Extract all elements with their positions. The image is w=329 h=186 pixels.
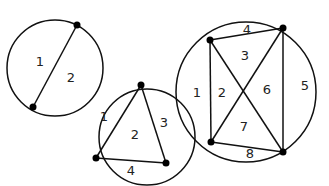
circle-group-two-points: 12	[7, 20, 103, 116]
region-label: 2	[218, 85, 226, 100]
region-label: 3	[160, 115, 168, 130]
region-label: 4	[127, 163, 135, 178]
circle-group-four-points: 43126578	[176, 22, 316, 163]
region-label: 2	[131, 127, 139, 142]
region-label: 1	[36, 54, 44, 69]
point-dot	[280, 149, 287, 156]
region-label: 4	[243, 22, 251, 37]
point-dot	[93, 155, 100, 162]
region-label: 5	[301, 78, 309, 93]
region-label: 2	[67, 70, 75, 85]
point-dot	[163, 160, 170, 167]
point-dot	[138, 82, 145, 89]
region-label: 8	[246, 146, 254, 161]
region-label: 1	[193, 85, 201, 100]
circle-outline	[7, 20, 103, 116]
point-dot	[74, 22, 81, 29]
point-dot	[208, 139, 215, 146]
region-label: 6	[263, 82, 271, 97]
region-label: 3	[241, 48, 249, 63]
circle-group-three-points: 1234	[93, 82, 196, 186]
point-dot	[280, 25, 287, 32]
chord-line	[210, 40, 211, 142]
point-dot	[30, 104, 37, 111]
circle-regions-diagram: 12123443126578	[0, 0, 329, 186]
point-dot	[207, 37, 214, 44]
region-label: 1	[100, 109, 108, 124]
region-label: 7	[240, 119, 248, 134]
